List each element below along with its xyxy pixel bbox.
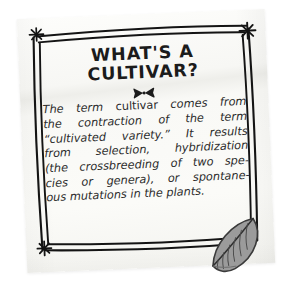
illustration-canvas: WHAT'S A CULTIVAR? The term cultivar com…: [0, 0, 287, 292]
star-bottom-left-icon: [37, 241, 52, 256]
bowtie-ornament-icon: [133, 87, 155, 100]
star-top-right-icon: [239, 22, 256, 39]
star-top-left-icon: [29, 28, 44, 42]
card-content: WHAT'S A CULTIVAR? The term cultivar com…: [36, 40, 256, 239]
body-text: The term cultivar comes from the contrac…: [38, 95, 254, 206]
leaf-icon: [200, 216, 278, 278]
emphasized-term: cultivar: [115, 99, 158, 114]
